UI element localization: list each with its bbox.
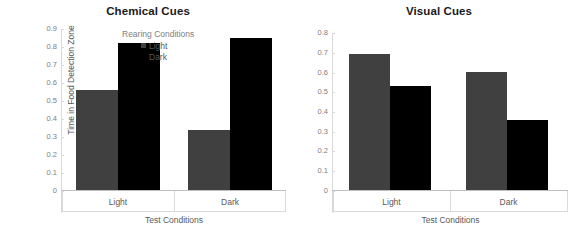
x-axis-categories: Light Dark	[333, 191, 568, 212]
x-axis-label: Test Conditions	[62, 215, 286, 225]
x-axis-categories: Light Dark	[62, 191, 286, 212]
legend-label: Dark	[149, 52, 167, 62]
bar-light-rearing-dark[interactable]	[188, 130, 230, 190]
bars-container	[333, 33, 568, 190]
figure: Chemical Cues Time in Food Detection Zon…	[0, 0, 582, 245]
legend: Rearing Conditions Light Dark	[122, 29, 194, 62]
bar-light-rearing-light[interactable]	[76, 90, 118, 190]
y-tick-label: 0.8	[298, 29, 328, 37]
y-tick-label: 0.8	[27, 43, 57, 51]
y-tick-label: 0.6	[27, 79, 57, 87]
chart-panel-visual-cues: Visual Cues 0.8 0.7 0.6 0.5 0.4 0.3 0.2 …	[296, 0, 582, 245]
y-tick-label: 0.6	[298, 69, 328, 77]
bar-dark-rearing-light[interactable]	[118, 43, 160, 190]
x-axis-label: Test Conditions	[333, 215, 568, 225]
y-tick-label: 0.5	[298, 88, 328, 96]
y-tick-label: 0.1	[27, 169, 57, 177]
bar-group-light	[333, 33, 450, 190]
plot-area: 0.8 0.7 0.6 0.5 0.4 0.3 0.2 0.1 0	[332, 33, 568, 191]
chart-title: Chemical Cues	[0, 5, 296, 17]
y-tick-label: 0	[27, 187, 57, 195]
x-category-label: Light	[62, 191, 174, 212]
legend-label: Light	[149, 41, 167, 51]
y-tick-label: 0.3	[27, 133, 57, 141]
bar-dark-rearing-light[interactable]	[390, 86, 431, 190]
legend-items: Light Dark	[122, 40, 194, 62]
bar-dark-rearing-dark[interactable]	[507, 120, 548, 190]
bar-dark-rearing-dark[interactable]	[230, 38, 272, 190]
y-tick-label: 0.7	[27, 61, 57, 69]
y-tick-label: 0.7	[298, 49, 328, 57]
x-category-label: Dark	[174, 191, 286, 212]
category-axis-edge	[567, 191, 568, 212]
bar-light-rearing-dark[interactable]	[466, 72, 507, 190]
y-tick-label: 0.2	[27, 151, 57, 159]
x-category-label: Dark	[450, 191, 567, 212]
y-tick-label: 0.5	[27, 97, 57, 105]
y-tick-label: 0.3	[298, 128, 328, 136]
bar-light-rearing-light[interactable]	[349, 54, 390, 190]
y-tick-label: 0.4	[298, 108, 328, 116]
legend-swatch-dark-icon	[141, 54, 146, 59]
legend-item-light[interactable]: Light	[141, 40, 194, 51]
chart-panel-chemical-cues: Chemical Cues Time in Food Detection Zon…	[0, 0, 296, 245]
y-tick-label: 0.9	[27, 25, 57, 33]
x-category-label: Light	[333, 191, 450, 212]
legend-swatch-light-icon	[141, 43, 146, 48]
y-tick-label: 0.2	[298, 147, 328, 155]
y-tick-label: 0	[298, 187, 328, 195]
bar-group-dark	[450, 33, 567, 190]
y-tick-label: 0.4	[27, 115, 57, 123]
legend-title: Rearing Conditions	[122, 29, 194, 39]
y-tick-label: 0.1	[298, 167, 328, 175]
category-axis-edge	[285, 191, 286, 212]
legend-item-dark[interactable]: Dark	[141, 51, 194, 62]
chart-title: Visual Cues	[296, 5, 582, 17]
